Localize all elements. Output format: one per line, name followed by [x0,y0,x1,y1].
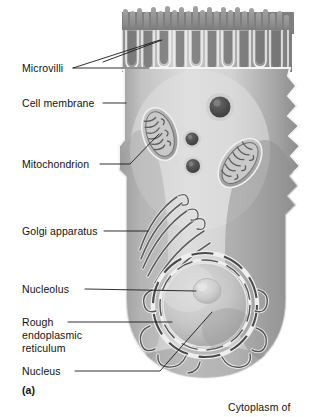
label-microvilli: Microvilli [22,62,63,75]
panel-letter: (a) [22,384,35,397]
label-nucleus: Nucleus [22,365,61,378]
label-golgi-apparatus: Golgi apparatus [22,225,98,238]
label-cytoplasm-of: Cytoplasm of [228,401,290,414]
label-mitochondrion: Mitochondrion [22,158,89,171]
label-cell-membrane: Cell membrane [22,97,95,110]
cell-diagram-figure: Microvilli Cell membrane Mitochondrion G… [0,0,319,417]
label-rough-er-line1: Rough [22,316,53,329]
microvilli-group [122,6,294,72]
label-nucleolus: Nucleolus [22,283,69,296]
nucleolus [193,279,221,304]
vesicle-medium [183,130,201,148]
vesicle-large [206,93,234,121]
label-rough-er-line2: endoplasmic [22,329,82,342]
microvilli-fingers [122,30,292,72]
label-rough-er-line3: reticulum [22,342,66,355]
vesicle-small [184,157,203,176]
